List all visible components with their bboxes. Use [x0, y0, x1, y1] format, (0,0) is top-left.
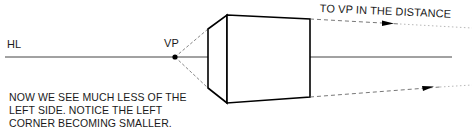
caption-line: LEFT SIDE. NOTICE THE LEFT	[9, 104, 249, 117]
distant-guide-bottom	[310, 87, 440, 97]
box-left-face	[208, 15, 227, 103]
box-front-face	[227, 15, 310, 103]
vp-guide-bottom-left	[175, 57, 208, 88]
distant-guide-bottom-fade	[440, 85, 472, 87]
vanishing-point-label: VP	[164, 37, 179, 50]
arrow-bottom-icon	[422, 86, 434, 91]
vp-guide-top-left	[175, 29, 208, 57]
caption-line: NOW WE SEE MUCH LESS OF THE	[9, 91, 249, 104]
caption: NOW WE SEE MUCH LESS OF THE LEFT SIDE. N…	[9, 91, 249, 130]
caption-line: CORNER BECOMING SMALLER.	[9, 117, 249, 130]
vanishing-point-dot	[172, 54, 177, 59]
horizon-line-label: HL	[7, 38, 21, 51]
arrow-top-icon	[382, 21, 394, 27]
distant-guide-top-fade	[400, 24, 472, 28]
